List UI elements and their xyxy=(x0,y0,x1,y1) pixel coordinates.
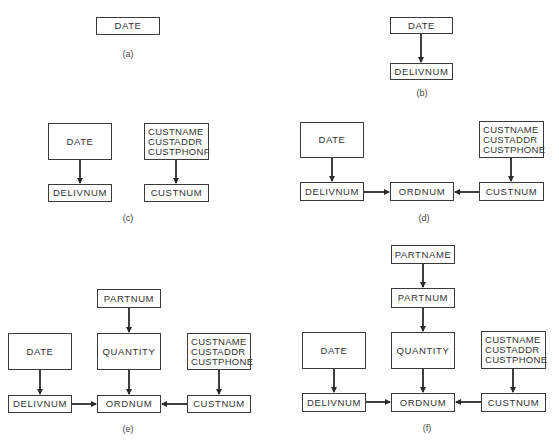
entity-label: DATE xyxy=(320,346,347,356)
panel-caption: (b) xyxy=(417,88,428,98)
entity-label: DATE xyxy=(318,135,345,145)
entity-quantity: QUANTITY xyxy=(97,333,161,370)
entity-label: DELIVNUM xyxy=(53,188,107,198)
entity-delivnum: DELIVNUM xyxy=(8,395,72,413)
entity-label: CUSTNUM xyxy=(151,188,203,198)
panel-caption: (f) xyxy=(423,423,432,433)
entity-label: DELIVNUM xyxy=(395,67,449,77)
entity-label: DATE xyxy=(26,347,53,357)
attr-custname: CUSTNAME xyxy=(191,337,247,347)
attr-custaddr: CUSTADDR xyxy=(191,347,245,357)
entity-custnum: CUSTNUM xyxy=(187,395,251,413)
entity-delivnum: DELIVNUM xyxy=(300,182,364,201)
entity-date: DATE xyxy=(302,332,366,369)
entity-custnum: CUSTNUM xyxy=(481,393,546,412)
entity-partname: PARTNAME xyxy=(391,245,455,264)
entity-label: CUSTNUM xyxy=(193,399,245,409)
entity-ordnum: ORDNUM xyxy=(391,393,455,412)
entity-customer-attributes: CUSTNAME CUSTADDR CUSTPHONF xyxy=(144,123,209,160)
entity-label: DELIVNUM xyxy=(305,187,359,197)
arrows-layer xyxy=(0,0,559,445)
entity-label: PARTNUM xyxy=(398,293,448,303)
entity-label: PARTNUM xyxy=(104,294,154,304)
entity-label: DATE xyxy=(114,21,141,31)
entity-date: DATE xyxy=(300,122,364,158)
panel-caption: (c) xyxy=(123,213,134,223)
entity-label: DATE xyxy=(408,21,435,31)
entity-ordnum: ORDNUM xyxy=(390,182,454,201)
entity-customer-attributes: CUSTNAME CUSTADDR CUSTPHONE xyxy=(187,333,251,370)
entity-customer-attributes: CUSTNAME CUSTADDR CUSTPHONE xyxy=(481,331,546,369)
attr-custphone: CUSTPHONE xyxy=(485,355,547,365)
entity-customer-attributes: CUSTNAME CUSTADDR CUSTPHONE xyxy=(479,121,544,158)
entity-label: ORDNUM xyxy=(106,399,152,409)
attr-custname: CUSTNAME xyxy=(148,127,204,137)
entity-date: DATE xyxy=(8,333,72,370)
entity-label: QUANTITY xyxy=(397,346,450,356)
entity-date: DATE xyxy=(48,123,112,160)
entity-label: DELIVNUM xyxy=(13,399,67,409)
entity-partnum: PARTNUM xyxy=(391,288,455,308)
entity-label: QUANTITY xyxy=(103,347,156,357)
entity-label: CUSTNUM xyxy=(488,398,540,408)
panel-caption: (a) xyxy=(123,49,134,59)
entity-custnum: CUSTNUM xyxy=(479,182,544,201)
entity-ordnum: ORDNUM xyxy=(97,395,161,413)
entity-custnum: CUSTNUM xyxy=(144,184,209,202)
attr-custaddr: CUSTADDR xyxy=(148,137,202,147)
entity-quantity: QUANTITY xyxy=(391,332,455,369)
entity-label: CUSTNUM xyxy=(486,187,538,197)
entity-label: DELIVNUM xyxy=(307,398,361,408)
entity-delivnum: DELIVNUM xyxy=(48,184,112,202)
attr-custphone: CUSTPHONE xyxy=(483,145,545,155)
entity-label: PARTNAME xyxy=(395,250,452,260)
entity-delivnum: DELIVNUM xyxy=(390,63,453,80)
attr-custaddr: CUSTADDR xyxy=(483,135,537,145)
attr-custname: CUSTNAME xyxy=(483,125,539,135)
attr-custphone: CUSTPHONE xyxy=(191,357,253,367)
panel-caption: (e) xyxy=(123,424,134,434)
panel-caption: (d) xyxy=(419,213,430,223)
entity-date: DATE xyxy=(96,17,160,35)
entity-delivnum: DELIVNUM xyxy=(302,393,366,412)
entity-date: DATE xyxy=(390,17,453,34)
entity-label: ORDNUM xyxy=(400,398,446,408)
attr-custphone: CUSTPHONF xyxy=(148,147,210,157)
entity-partnum: PARTNUM xyxy=(97,289,161,308)
entity-label: ORDNUM xyxy=(399,187,445,197)
entity-label: DATE xyxy=(66,137,93,147)
